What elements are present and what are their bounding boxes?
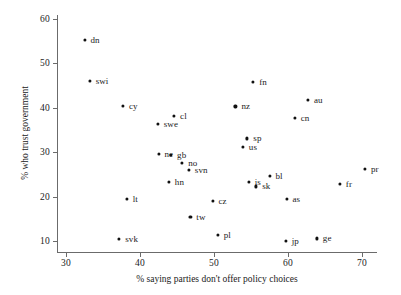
x-tick-label: 50: [209, 258, 219, 268]
data-point-label: swi: [96, 76, 109, 86]
data-point: [216, 233, 219, 236]
scatter-plot-figure: 3040506070 102030405060 dnswicyclswenegb…: [0, 0, 401, 295]
x-tick-label: 60: [283, 258, 293, 268]
data-point: [83, 38, 86, 41]
data-point-label: pr: [371, 164, 379, 174]
data-point: [88, 80, 91, 83]
x-tick-mark: [140, 253, 141, 257]
y-axis-title: % who trust government: [20, 63, 30, 203]
x-tick-label: 70: [357, 258, 367, 268]
data-point: [247, 180, 250, 183]
data-point-label: nz: [241, 101, 250, 111]
x-axis-title: % saying parties don't offer policy choi…: [57, 274, 377, 284]
data-point: [285, 197, 288, 200]
x-axis-line: [57, 252, 377, 253]
x-tick-label: 30: [61, 258, 71, 268]
y-tick-mark: [53, 108, 57, 109]
data-point: [252, 80, 255, 83]
data-point-label: hn: [175, 177, 184, 187]
x-tick-mark: [288, 253, 289, 257]
data-point-label: cn: [301, 113, 310, 123]
y-tick-label: 60: [28, 14, 50, 24]
data-point: [363, 167, 366, 170]
plot-area: 3040506070 102030405060 dnswicyclswenegb…: [0, 0, 401, 295]
data-point: [284, 239, 287, 242]
data-point: [187, 168, 190, 171]
x-tick-mark: [214, 253, 215, 257]
x-tick-mark: [66, 253, 67, 257]
data-point: [157, 152, 160, 155]
y-tick-mark: [53, 63, 57, 64]
data-point: [211, 199, 214, 202]
data-point-label: fr: [346, 179, 352, 189]
data-point: [246, 137, 249, 140]
data-point-label: fn: [259, 77, 267, 87]
data-point: [172, 115, 175, 118]
y-axis-line: [57, 15, 58, 252]
data-point-label: cz: [219, 196, 227, 206]
data-point: [189, 215, 192, 218]
y-tick-label: 10: [28, 236, 50, 246]
data-point-label: pl: [224, 230, 231, 240]
y-tick-label: 30: [28, 147, 50, 157]
y-tick-mark: [53, 197, 57, 198]
data-point-label: svk: [125, 234, 138, 244]
data-point-label: us: [249, 142, 257, 152]
data-point-label: as: [293, 194, 301, 204]
data-point-label: sk: [262, 181, 270, 191]
data-point: [118, 237, 121, 240]
data-point: [255, 185, 258, 188]
data-point: [268, 175, 271, 178]
data-point-label: svn: [195, 165, 208, 175]
data-point: [338, 183, 341, 186]
y-tick-label: 40: [28, 103, 50, 113]
y-tick-mark: [53, 152, 57, 153]
data-point: [167, 180, 170, 183]
data-point-label: dn: [91, 35, 100, 45]
y-tick-mark: [53, 241, 57, 242]
data-point-label: jp: [292, 236, 299, 246]
data-point-label: cl: [180, 111, 187, 121]
data-point-label: ge: [323, 233, 332, 243]
data-point: [241, 145, 244, 148]
data-point: [293, 116, 296, 119]
data-point-label: swe: [164, 119, 178, 129]
data-point: [306, 98, 309, 101]
data-point: [315, 237, 318, 240]
y-tick-label: 20: [28, 192, 50, 202]
data-point-label: au: [314, 95, 323, 105]
data-point: [234, 105, 237, 108]
x-tick-label: 40: [135, 258, 145, 268]
data-point-label: gb: [177, 150, 186, 160]
data-point: [121, 104, 124, 107]
data-point: [156, 123, 159, 126]
data-point: [181, 161, 184, 164]
data-point-label: lt: [133, 194, 138, 204]
data-point-label: cy: [129, 101, 138, 111]
y-tick-mark: [53, 19, 57, 20]
data-point: [125, 198, 128, 201]
x-tick-mark: [362, 253, 363, 257]
data-point-label: tw: [196, 212, 205, 222]
data-point-label: bl: [276, 171, 283, 181]
y-tick-label: 50: [28, 58, 50, 68]
